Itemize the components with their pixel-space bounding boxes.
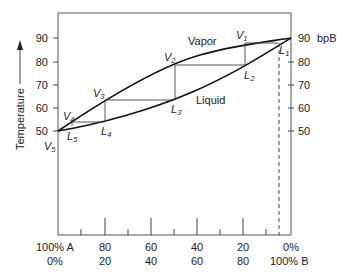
vapor-curve: [58, 38, 291, 131]
x-axis-labels-row2: 0% 20 40 60 80 100% B: [47, 255, 309, 267]
right-y-tick-labels: 90 bpB 80 70 60 50: [298, 32, 337, 137]
point-V2: V2: [164, 51, 176, 65]
x-axis-ticks: [81, 218, 266, 235]
x2-label-80: 80: [237, 255, 249, 267]
point-labels: V1 L1 V2 L2 V3 L3 V4 L4 L5 V5: [44, 29, 289, 154]
x2-label-40: 40: [145, 255, 157, 267]
right-y-tick-90: 90: [298, 32, 310, 44]
liquid-curve: [58, 38, 291, 131]
x-label-40: 40: [191, 241, 203, 253]
arrow-up-icon: [17, 40, 23, 50]
point-V5: V5: [44, 140, 56, 154]
point-L5: L5: [67, 130, 78, 144]
bpB-label: bpB: [317, 32, 337, 44]
point-V1: V1: [236, 29, 248, 43]
y-axis-title: Temperature: [14, 40, 26, 150]
liquid-label: Liquid: [196, 94, 225, 106]
x-label-80: 80: [99, 241, 111, 253]
right-y-tick-70: 70: [298, 79, 310, 91]
left-y-tick-labels: 90 80 70 60 50: [36, 32, 48, 137]
point-L1: L1: [279, 44, 289, 58]
phase-diagram: 90 80 70 60 50 90 bpB 80 70 60 50 Temper…: [0, 0, 346, 274]
y-tick-80: 80: [36, 56, 48, 68]
y-tick-50: 50: [36, 125, 48, 137]
point-L2: L2: [244, 69, 255, 83]
right-y-tick-60: 60: [298, 102, 310, 114]
x-label-0pct: 0%: [283, 241, 299, 253]
point-V3: V3: [93, 87, 105, 101]
x2-label-60: 60: [191, 255, 203, 267]
x2-label-100B: 100% B: [270, 255, 309, 267]
vapor-label: Vapor: [188, 35, 217, 47]
point-L4: L4: [101, 125, 111, 139]
y-tick-70: 70: [36, 79, 48, 91]
x2-label-0pct: 0%: [47, 255, 63, 267]
x-axis-labels-row1: 100% A 80 60 40 20 0%: [36, 241, 299, 253]
right-y-tick-80: 80: [298, 56, 310, 68]
x2-label-20: 20: [99, 255, 111, 267]
point-L3: L3: [171, 103, 182, 117]
x-label-60: 60: [145, 241, 157, 253]
temperature-label: Temperature: [14, 88, 26, 150]
point-V4: V4: [63, 110, 75, 124]
left-y-ticks: [53, 38, 58, 131]
right-y-tick-50: 50: [298, 125, 310, 137]
x-label-20: 20: [237, 241, 249, 253]
y-tick-60: 60: [36, 102, 48, 114]
x-label-100A: 100% A: [36, 241, 75, 253]
y-tick-90: 90: [36, 32, 48, 44]
